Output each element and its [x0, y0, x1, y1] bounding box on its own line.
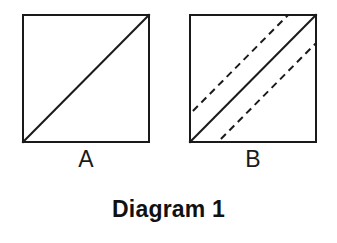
figure-svg — [0, 0, 337, 160]
figure-caption: Diagram 1 — [0, 196, 337, 223]
panel-a-label: A — [22, 148, 150, 171]
panel-b — [176, 1, 330, 156]
panel-a — [23, 15, 149, 142]
figure-area — [0, 0, 337, 160]
diagram-page: A B Diagram 1 — [0, 0, 337, 243]
panel-b-label: B — [189, 148, 317, 171]
